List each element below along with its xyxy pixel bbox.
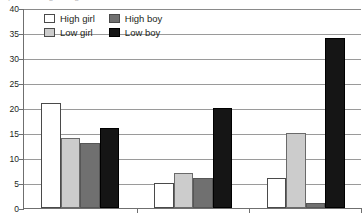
bar-low-girl-2[interactable] [174, 173, 194, 208]
legend-item-low-girl[interactable]: Low girl [44, 27, 95, 38]
y-axis-tick-label: 40 [10, 5, 19, 14]
y-axis-tick-label: 10 [10, 155, 19, 164]
legend-item-high-boy[interactable]: High boy [109, 13, 163, 24]
legend-item-high-girl[interactable]: High girl [44, 13, 95, 24]
y-axis-tick-label: 25 [10, 80, 19, 89]
y-axis-tick-label: 15 [10, 130, 19, 139]
clipped-title-strip: p value regarding [0, 0, 363, 9]
x-axis-tick [249, 208, 250, 213]
y-axis-tick-label: 35 [10, 30, 19, 39]
bar-high-girl-1[interactable] [41, 103, 61, 208]
bar-high-boy-1[interactable] [80, 143, 100, 208]
bar-low-girl-3[interactable] [286, 133, 306, 208]
legend-label: High girl [60, 13, 95, 24]
legend-label: High boy [125, 13, 163, 24]
bars-layer [24, 9, 361, 208]
legend-label: Low boy [125, 27, 160, 38]
bar-high-boy-3[interactable] [306, 203, 326, 208]
x-axis-tick [137, 208, 138, 213]
bar-high-girl-3[interactable] [267, 178, 287, 208]
legend-item-low-boy[interactable]: Low boy [109, 27, 163, 38]
legend-swatch-icon [109, 14, 120, 23]
bar-low-boy-2[interactable] [213, 108, 233, 208]
bar-low-boy-1[interactable] [100, 128, 120, 208]
legend-swatch-icon [109, 28, 120, 37]
clipped-title-text: p value regarding [8, 0, 79, 1]
legend-swatch-icon [44, 28, 55, 37]
legend: High girl High boy Low girl Low boy [44, 13, 162, 38]
y-axis-tick-label: 30 [10, 55, 19, 64]
bar-high-boy-2[interactable] [193, 178, 213, 208]
y-axis-tick-label: 20 [10, 105, 19, 114]
bar-high-girl-2[interactable] [154, 183, 174, 208]
bar-low-boy-3[interactable] [325, 38, 345, 208]
bar-low-girl-1[interactable] [61, 138, 81, 208]
y-axis-tick [19, 209, 24, 210]
bar-chart: p value regarding 0510152025303540 High … [0, 0, 363, 217]
legend-label: Low girl [60, 27, 93, 38]
legend-swatch-icon [44, 14, 55, 23]
x-axis-tick [361, 208, 362, 213]
plot-area [23, 9, 361, 209]
